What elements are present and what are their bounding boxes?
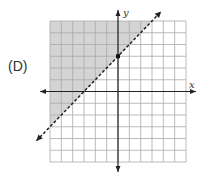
y-axis-arrow-down-icon bbox=[116, 166, 121, 172]
x-axis-label: x bbox=[189, 79, 195, 90]
y-axis-label: y bbox=[122, 7, 129, 18]
x-axis-arrow-left-icon bbox=[40, 89, 46, 94]
x-axis-arrow-icon bbox=[190, 89, 196, 94]
y-intercept-point bbox=[116, 54, 120, 58]
y-axis-arrow-icon bbox=[116, 10, 121, 16]
coordinate-plane: xy bbox=[0, 0, 206, 176]
